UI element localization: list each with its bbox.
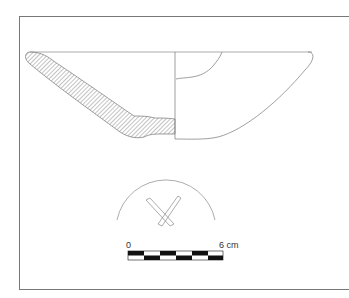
section-profile [26,52,176,138]
break-line [176,52,222,79]
base-arc [117,180,215,220]
exterior-profile [175,52,313,139]
scale-start-label: 0 [126,240,131,250]
scale-end-label: 6 cm [219,240,239,250]
scale-bar [128,251,223,260]
cross-mark-icon [146,196,181,226]
